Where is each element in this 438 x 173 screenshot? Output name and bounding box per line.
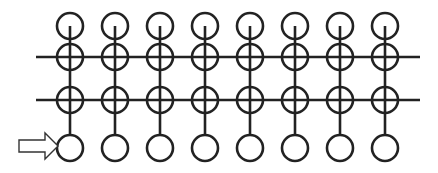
input-arrow-icon xyxy=(19,133,58,159)
input-node-3 xyxy=(147,135,173,161)
diagram-canvas xyxy=(0,0,438,173)
input-node-4 xyxy=(192,135,218,161)
input-node-7 xyxy=(327,135,353,161)
input-node-8 xyxy=(372,135,398,161)
network-diagram xyxy=(0,0,438,173)
input-node-1 xyxy=(57,135,83,161)
input-node-5 xyxy=(237,135,263,161)
input-node-6 xyxy=(282,135,308,161)
input-node-2 xyxy=(102,135,128,161)
